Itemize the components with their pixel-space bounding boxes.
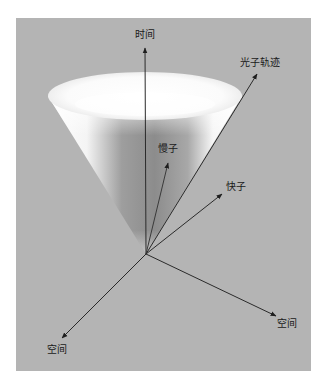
slow-particle-label: 慢子 bbox=[158, 144, 178, 154]
time-axis-label: 时间 bbox=[135, 30, 155, 40]
space-axis-right-label: 空间 bbox=[277, 319, 297, 329]
space-axis-left-label: 空间 bbox=[47, 345, 67, 355]
space-axis-right-arrow bbox=[146, 254, 276, 316]
photon-trajectory-label: 光子轨迹 bbox=[240, 58, 280, 68]
space-axis-left-arrow bbox=[62, 254, 146, 338]
fast-particle-label: 快子 bbox=[226, 182, 246, 192]
